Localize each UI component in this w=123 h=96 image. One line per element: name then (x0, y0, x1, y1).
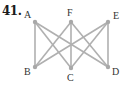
vertex-A (33, 20, 37, 24)
graph-edges (35, 22, 108, 68)
vertex-C (69, 66, 73, 70)
vertex-F (69, 20, 73, 24)
vertex-D (106, 65, 110, 69)
vertex-E (106, 20, 110, 24)
vertex-label-E: E (113, 10, 119, 21)
vertex-label-B: B (24, 66, 31, 77)
vertex-B (33, 65, 37, 69)
vertex-label-D: D (112, 66, 119, 77)
vertex-label-F: F (67, 7, 73, 18)
bipartite-graph: AFEBCD (0, 0, 123, 96)
vertex-label-C: C (67, 72, 74, 83)
vertex-label-A: A (24, 9, 32, 20)
